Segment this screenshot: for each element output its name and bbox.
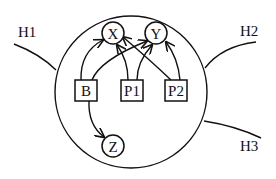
edge-b-y (92, 41, 147, 80)
edge-b-x (81, 40, 103, 80)
node-b[interactable]: B (75, 80, 97, 101)
node-x-label: X (108, 26, 119, 42)
node-p2-label: P2 (168, 83, 184, 99)
diagram-canvas: H1 H2 H3 X Y Z B P1 P2 (0, 0, 276, 179)
link-line-h1 (14, 44, 56, 70)
label-h2: H2 (240, 23, 258, 39)
label-h3: H3 (240, 138, 258, 154)
node-p1-label: P1 (124, 83, 140, 99)
edge-p2-y (166, 42, 180, 80)
link-line-h2 (205, 42, 256, 68)
node-p1[interactable]: P1 (121, 80, 143, 101)
node-z[interactable]: Z (102, 135, 124, 157)
node-p2[interactable]: P2 (165, 80, 187, 101)
node-y[interactable]: Y (145, 22, 167, 44)
node-z-label: Z (108, 139, 117, 155)
node-b-label: B (81, 83, 91, 99)
node-x[interactable]: X (102, 22, 124, 44)
node-y-label: Y (151, 26, 162, 42)
link-line-h3 (204, 121, 261, 138)
edge-p2-x (123, 37, 171, 80)
edge-b-z (89, 101, 104, 137)
label-h1: H1 (18, 24, 36, 40)
